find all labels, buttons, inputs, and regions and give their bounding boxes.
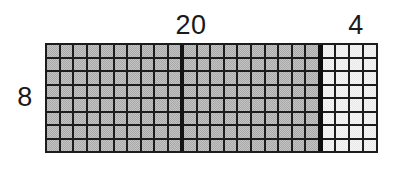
- grid-cell: [115, 140, 127, 152]
- grid-column: [306, 45, 318, 151]
- grid-cell: [225, 45, 237, 57]
- grid-cell: [115, 72, 127, 84]
- grid-cell: [88, 86, 100, 98]
- grid-cell: [184, 99, 196, 111]
- grid-column: [364, 45, 376, 151]
- grid-cell: [101, 140, 113, 152]
- grid-cell: [184, 45, 196, 57]
- grid-cell: [101, 126, 113, 138]
- grid-cell: [323, 72, 335, 84]
- grid-column: [142, 45, 154, 151]
- grid-cell: [198, 126, 210, 138]
- grid-cell: [47, 59, 59, 71]
- grid-cell: [238, 99, 250, 111]
- grid-column: [293, 45, 305, 151]
- grid-cell: [184, 113, 196, 125]
- grid-cell: [350, 72, 362, 84]
- grid-cell: [211, 59, 223, 71]
- grid-cell: [88, 113, 100, 125]
- grid-cell: [306, 72, 318, 84]
- grid-cell: [61, 113, 73, 125]
- top-label-major-columns: 20: [160, 12, 222, 39]
- grid-cell: [225, 59, 237, 71]
- grid-cell: [74, 45, 86, 57]
- grid-column: [115, 45, 127, 151]
- grid-cell: [279, 99, 291, 111]
- grid-cell: [88, 140, 100, 152]
- grid-cell: [115, 45, 127, 57]
- grid-cell: [306, 113, 318, 125]
- top-label-minor-columns: 4: [330, 12, 382, 39]
- grid-block-major-first-ten: [47, 45, 180, 151]
- grid-cell: [74, 86, 86, 98]
- grid-cell: [252, 126, 264, 138]
- grid-cell: [279, 140, 291, 152]
- grid-cell: [184, 126, 196, 138]
- grid-cell: [155, 113, 167, 125]
- grid-cell: [306, 59, 318, 71]
- grid-column: [61, 45, 73, 151]
- grid-cell: [61, 72, 73, 84]
- grid-column: [238, 45, 250, 151]
- grid-cell: [198, 113, 210, 125]
- grid-cell: [184, 140, 196, 152]
- grid-cell: [88, 72, 100, 84]
- grid-cell: [323, 126, 335, 138]
- grid-column: [88, 45, 100, 151]
- grid-cell: [184, 86, 196, 98]
- grid-cell: [350, 99, 362, 111]
- grid-cell: [88, 126, 100, 138]
- grid-column: [198, 45, 210, 151]
- grid-column: [266, 45, 278, 151]
- grid-cell: [61, 140, 73, 152]
- grid-cell: [47, 99, 59, 111]
- grid-cell: [47, 86, 59, 98]
- grid-cell: [238, 45, 250, 57]
- grid-cell: [225, 113, 237, 125]
- grid-cell: [155, 86, 167, 98]
- grid-cell: [252, 72, 264, 84]
- grid-cell: [101, 99, 113, 111]
- grid-cell: [279, 72, 291, 84]
- grid-cell: [128, 126, 140, 138]
- grid-cell: [101, 113, 113, 125]
- grid-cell: [142, 126, 154, 138]
- grid-cell: [61, 99, 73, 111]
- grid-cell: [293, 126, 305, 138]
- grid-cell: [74, 72, 86, 84]
- grid-cell: [364, 99, 376, 111]
- grid-cell: [115, 99, 127, 111]
- grid-cell: [101, 72, 113, 84]
- grid-cell: [350, 45, 362, 57]
- grid-cell: [266, 113, 278, 125]
- grid-cell: [225, 126, 237, 138]
- grid-cell: [306, 45, 318, 57]
- grid-cell: [115, 126, 127, 138]
- grid-cell: [238, 113, 250, 125]
- grid-cell: [155, 45, 167, 57]
- grid-cell: [47, 45, 59, 57]
- grid-cell: [128, 72, 140, 84]
- grid-cell: [101, 59, 113, 71]
- grid-cell: [323, 59, 335, 71]
- grid-cell: [238, 59, 250, 71]
- grid-cell: [155, 72, 167, 84]
- grid-cell: [142, 99, 154, 111]
- grid-cell: [47, 140, 59, 152]
- grid-cell: [184, 72, 196, 84]
- grid-cell: [169, 113, 181, 125]
- grid-cell: [211, 140, 223, 152]
- grid-cell: [169, 86, 181, 98]
- grid-column: [169, 45, 181, 151]
- grid-cell: [323, 113, 335, 125]
- grid-cell: [88, 45, 100, 57]
- grid-cell: [364, 86, 376, 98]
- grid-cell: [293, 140, 305, 152]
- grid-cell: [74, 59, 86, 71]
- grid-column: [47, 45, 59, 151]
- grid-cell: [142, 45, 154, 57]
- grid-cell: [350, 126, 362, 138]
- grid-column: [155, 45, 167, 151]
- grid-cell: [142, 140, 154, 152]
- grid-cell: [238, 86, 250, 98]
